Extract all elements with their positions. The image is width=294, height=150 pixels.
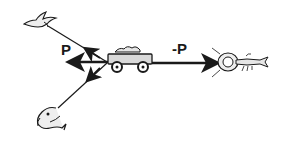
pike-rope	[58, 63, 107, 108]
crayfish-icon	[212, 48, 268, 77]
force-p-label: P	[61, 42, 71, 57]
force-diagram	[0, 0, 294, 150]
cart-icon	[108, 47, 152, 72]
swan-icon	[24, 12, 56, 27]
swan-rope	[48, 26, 107, 62]
pike-icon	[37, 108, 66, 131]
force-neg-p-label: -P	[172, 41, 187, 56]
